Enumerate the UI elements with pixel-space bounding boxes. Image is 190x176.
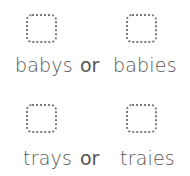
option-word-trays: trays (23, 148, 72, 168)
checkbox-trays[interactable] (26, 104, 57, 133)
checkbox-babys[interactable] (26, 14, 57, 43)
or-connector: or (80, 55, 99, 75)
checkbox-babies[interactable] (126, 14, 157, 43)
option-word-traies: traies (120, 148, 175, 168)
option-word-babies: babies (113, 55, 177, 75)
checkbox-traies[interactable] (126, 104, 157, 133)
or-connector: or (80, 148, 99, 168)
option-word-babys: babys (15, 55, 73, 75)
